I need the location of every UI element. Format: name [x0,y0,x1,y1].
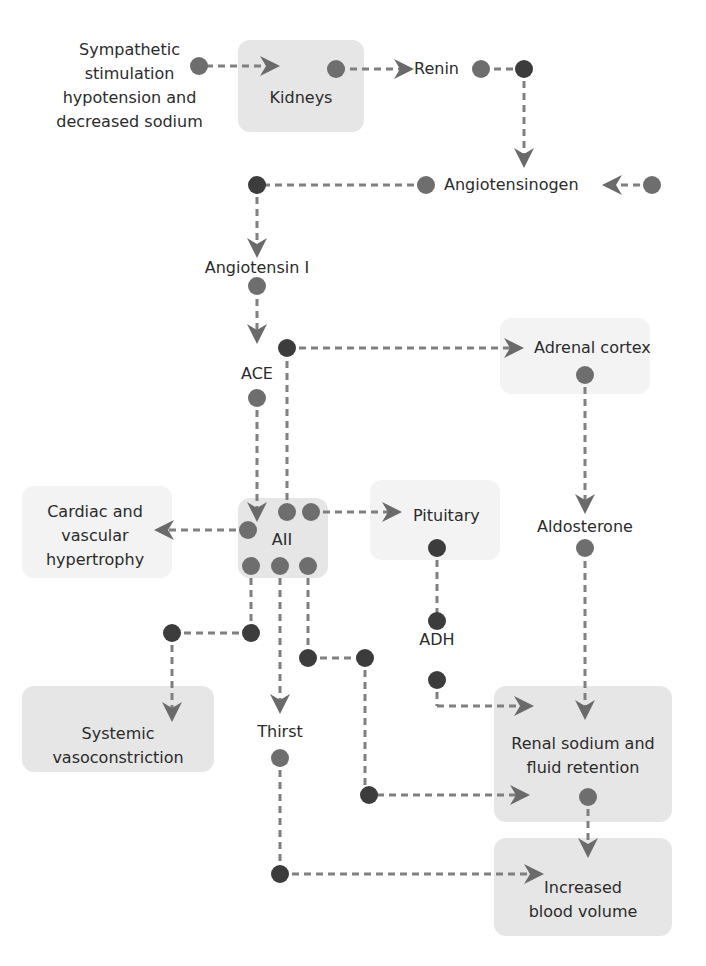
sympathetic-line1: Sympathetic [42,38,217,62]
node-kidneys: Kidneys [238,86,364,110]
node-blood-volume: Increased blood volume [494,876,672,924]
cardiac-line3: hypertrophy [30,548,160,572]
gray-dots [190,57,661,806]
node-sympathetic: Sympathetic stimulation hypotension and … [42,38,217,134]
node-aldosterone: Aldosterone [530,515,640,539]
node-renin: Renin [414,57,468,81]
cardiac-line2: vascular [30,524,160,548]
sympathetic-line3: hypotension and [42,86,217,110]
systemic-line1: Systemic [22,722,214,746]
node-angiotensinogen: Angiotensinogen [444,173,604,197]
node-pituitary: Pituitary [413,504,503,528]
node-systemic: Systemic vasoconstriction [22,722,214,770]
blood-volume-line2: blood volume [494,900,672,924]
renal-line2: fluid retention [494,756,672,780]
cardiac-line1: Cardiac and [30,500,160,524]
node-cardiac: Cardiac and vascular hypertrophy [30,500,160,572]
node-adh: ADH [412,628,462,652]
node-angiotensin-i: Angiotensin I [197,256,317,280]
renal-line1: Renal sodium and [494,732,672,756]
sympathetic-line4: decreased sodium [42,110,217,134]
connector-layer [0,0,706,966]
systemic-line2: vasoconstriction [22,746,214,770]
node-ace: ACE [232,362,282,386]
node-renal: Renal sodium and fluid retention [494,732,672,780]
node-adrenal-cortex: Adrenal cortex [534,336,664,360]
node-aii: AII [262,528,302,552]
blood-volume-line1: Increased [494,876,672,900]
sympathetic-line2: stimulation [42,62,217,86]
node-thirst: Thirst [250,720,310,744]
